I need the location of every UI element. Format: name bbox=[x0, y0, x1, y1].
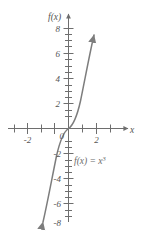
y-tick-label: -4 bbox=[54, 174, 62, 184]
x-tick-label: -2 bbox=[24, 135, 32, 145]
y-tick-label: 4 bbox=[56, 74, 61, 84]
equation-base: f(x) = x bbox=[74, 156, 103, 167]
equation-exponent: 3 bbox=[102, 155, 107, 162]
y-tick-label: 6 bbox=[56, 49, 61, 59]
function-graph-figure: f(x) x 0 -2 2 8 6 4 2 -2 -4 -6 -8 f(x) =… bbox=[0, 0, 141, 234]
y-tick-label: -8 bbox=[54, 218, 62, 228]
x-tick-label: 2 bbox=[94, 135, 99, 145]
y-tick-label: -2 bbox=[54, 149, 62, 159]
cubic-function-plot: f(x) x 0 -2 2 8 6 4 2 -2 -4 -6 -8 f(x) =… bbox=[0, 0, 141, 234]
axes-group bbox=[8, 14, 128, 222]
y-tick-label: -6 bbox=[54, 199, 62, 209]
x-axis-label: x bbox=[129, 125, 135, 135]
origin-label: 0 bbox=[60, 131, 65, 141]
y-tick-label: 8 bbox=[56, 24, 61, 34]
equation-annotation: f(x) = x3 bbox=[74, 155, 107, 167]
y-tick-label: 2 bbox=[56, 99, 61, 109]
y-axis-label: f(x) bbox=[48, 12, 61, 23]
